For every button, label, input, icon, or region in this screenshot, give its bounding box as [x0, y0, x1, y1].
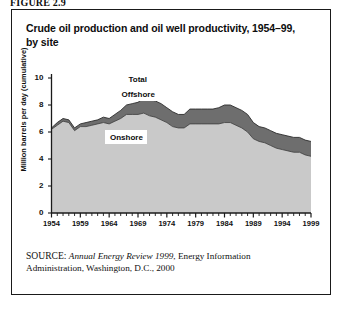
x-tick-label: 1999 — [294, 219, 328, 228]
y-tick-label: 4 — [30, 154, 44, 163]
source-prefix: SOURCE: — [26, 250, 67, 261]
source-note: SOURCE: Annual Energy Review 1999, Energ… — [26, 250, 308, 274]
y-tick-label: 0 — [30, 208, 44, 217]
y-tick-label: 2 — [30, 181, 44, 190]
source-publication: Annual Energy Review 1999 — [69, 251, 174, 261]
series-label-offshore: Offshore — [117, 87, 159, 101]
series-label-total: Total — [129, 75, 148, 84]
y-tick-label: 8 — [30, 100, 44, 109]
y-tick-label: 6 — [30, 127, 44, 136]
series-label-onshore: Onshore — [105, 130, 147, 144]
y-tick-label: 10 — [30, 73, 44, 82]
